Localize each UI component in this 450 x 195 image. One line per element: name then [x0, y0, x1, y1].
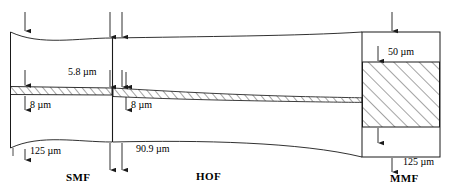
dimension-label-hof-core: 8 µm: [131, 100, 152, 110]
dimension-label-hof-cladding: 90.9 µm: [136, 144, 170, 154]
dimension-label-gap: 5.8 µm: [68, 67, 97, 77]
section-label-mmf: MMF: [390, 173, 419, 184]
section-label-hof: HOF: [196, 171, 221, 182]
dimension-label-mmf-cladding: 125 µm: [403, 157, 434, 167]
smf-core: [11, 87, 113, 96]
dimension-label-smf-cladding: 125 µm: [30, 146, 61, 156]
dimension-label-mmf-core: 50 µm: [388, 47, 414, 57]
fiber-splice-diagram: 5.8 µm 8 µm 8 µm 125 µm 90.9 µm 50 µm 12…: [0, 0, 450, 195]
diagram-canvas: [0, 0, 450, 195]
section-label-smf: SMF: [66, 172, 90, 183]
dimension-label-smf-core: 8 µm: [30, 100, 51, 110]
